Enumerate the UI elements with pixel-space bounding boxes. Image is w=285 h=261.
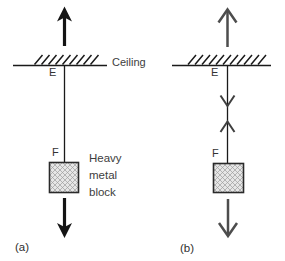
downward-force-arrow-a (57, 198, 72, 238)
panel-a-label: (a) (15, 241, 29, 253)
point-f-label-b: F (212, 147, 219, 159)
panel-b-diagram (172, 10, 271, 237)
panel-b-label: (b) (180, 242, 194, 254)
point-f-label-a: F (52, 146, 59, 158)
panel-a-diagram (13, 7, 107, 239)
ceiling-hatch-b (188, 55, 266, 65)
figure-hanging-block: Ceiling E F Heavy metal block (a) E F (b… (0, 0, 285, 261)
upward-force-arrow-a (57, 7, 72, 47)
upward-force-arrow-b (219, 10, 237, 48)
diagram-canvas (0, 0, 285, 261)
metal-block-b (214, 164, 244, 193)
ceiling-label: Ceiling (112, 56, 146, 68)
metal-block-a (50, 163, 79, 193)
ceiling-hatch-a (35, 55, 99, 65)
block-label: Heavy metal block (89, 150, 143, 201)
point-e-label-b: E (211, 66, 218, 78)
point-e-label-a: E (49, 66, 56, 78)
downward-force-arrow-b (219, 199, 237, 236)
